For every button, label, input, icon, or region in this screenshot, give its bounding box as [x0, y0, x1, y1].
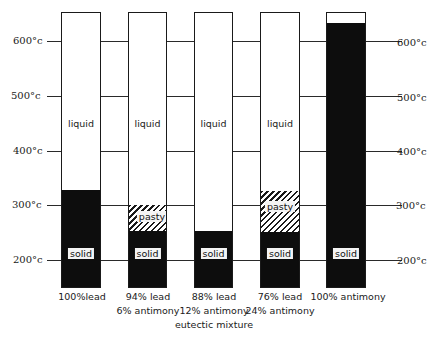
- y-tick-label: 500°c: [397, 92, 427, 104]
- x-label-line: 24% antimony: [242, 304, 318, 318]
- solid-label: solid: [200, 248, 226, 259]
- pasty-region: pasty: [129, 205, 166, 231]
- solid-label: solid: [333, 248, 359, 259]
- solid-label: solid: [134, 248, 160, 259]
- column-94-lead: liquid pasty solid: [128, 12, 167, 288]
- column-100-antimony: solid: [326, 12, 366, 288]
- liquid-label: liquid: [261, 118, 299, 129]
- y-tick-label: 400°c: [13, 145, 43, 157]
- solid-label: solid: [68, 248, 94, 259]
- x-label-100-antimony: 100% antimony: [308, 290, 388, 304]
- liquid-label: liquid: [62, 118, 100, 129]
- y-tick-label: 600°c: [13, 35, 43, 47]
- x-label-line: 76% lead: [242, 290, 318, 304]
- x-label-100-lead: 100%lead: [52, 290, 112, 304]
- solid-region: solid: [261, 232, 299, 287]
- solid-region: solid: [129, 231, 166, 287]
- solid-region: solid: [327, 23, 365, 287]
- y-tick-label: 400°c: [397, 146, 427, 158]
- x-label-line: 100% antimony: [308, 290, 388, 304]
- solid-region: solid: [62, 190, 100, 287]
- column-100-lead: liquid solid: [61, 12, 101, 288]
- column-88-lead-eutectic: liquid solid: [194, 12, 233, 288]
- y-tick-label: 200°c: [13, 254, 43, 266]
- solid-region: solid: [195, 231, 232, 287]
- y-tick-label: 300°c: [396, 200, 426, 212]
- pasty-region: pasty: [261, 191, 299, 232]
- y-tick-label: 500°c: [11, 90, 41, 102]
- eutectic-annotation: eutectic mixture: [172, 318, 256, 332]
- y-tick-label: 200°c: [397, 255, 427, 267]
- x-label-line: 100%lead: [52, 290, 112, 304]
- solid-label: solid: [267, 248, 293, 259]
- x-label-76-lead: 76% lead 24% antimony: [242, 290, 318, 318]
- pasty-label: pasty: [137, 211, 167, 222]
- column-76-lead: liquid pasty solid: [260, 12, 300, 288]
- y-tick-label: 600°c: [397, 37, 427, 49]
- pasty-label: pasty: [265, 201, 295, 212]
- liquid-label: liquid: [129, 118, 166, 129]
- y-tick-label: 300°c: [12, 199, 42, 211]
- liquid-label: liquid: [195, 118, 232, 129]
